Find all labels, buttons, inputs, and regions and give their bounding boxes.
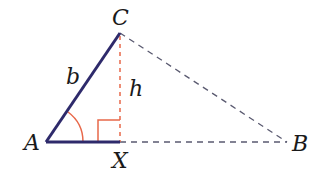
vertex-label-b: B	[291, 131, 308, 156]
vertex-label-a: A	[22, 130, 40, 155]
vertex-label-c: C	[112, 5, 129, 30]
side-cb-dashed	[120, 33, 287, 142]
triangle-diagram: C b h A X B	[0, 0, 317, 175]
vertex-label-x: X	[110, 148, 129, 173]
side-b	[46, 33, 120, 142]
angle-arc-a	[68, 112, 83, 142]
right-angle-marker	[98, 120, 120, 142]
height-label-h: h	[129, 76, 143, 101]
side-label-b: b	[66, 64, 80, 89]
